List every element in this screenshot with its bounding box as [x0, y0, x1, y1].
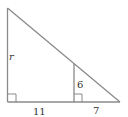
label-6: 6: [77, 79, 83, 90]
right-angle-marker-inner: [74, 94, 82, 102]
label-r: r: [9, 51, 15, 62]
right-angle-marker-left: [8, 94, 17, 102]
triangle-diagram: r 6 11 7: [0, 0, 128, 117]
hypotenuse: [8, 8, 121, 102]
label-11: 11: [33, 106, 46, 117]
label-7: 7: [93, 105, 99, 116]
